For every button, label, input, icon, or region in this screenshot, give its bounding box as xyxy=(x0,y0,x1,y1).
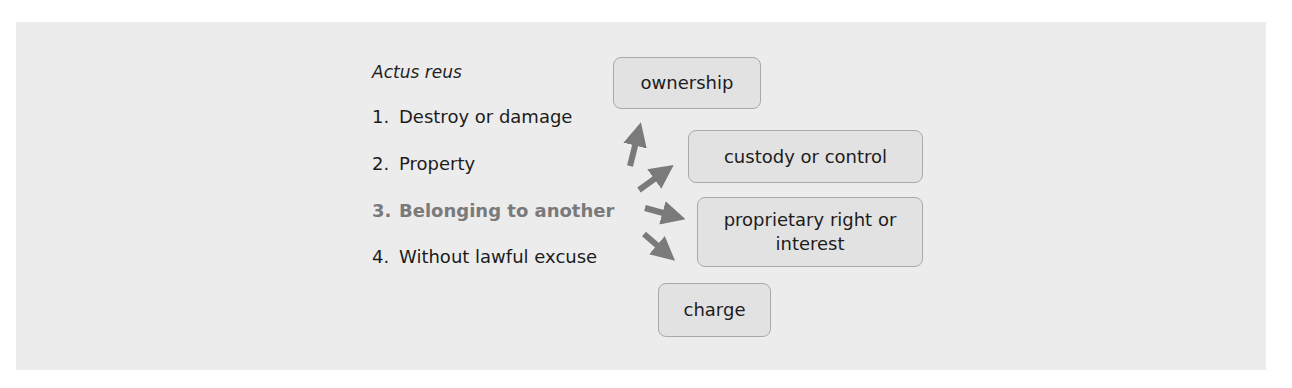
arrows-layer xyxy=(0,0,1292,388)
arrow-to-proprietary-icon xyxy=(645,208,674,216)
arrow-to-custody-icon xyxy=(639,172,664,190)
arrow-to-ownership-icon xyxy=(630,134,638,166)
arrow-to-charge-icon xyxy=(644,234,666,253)
